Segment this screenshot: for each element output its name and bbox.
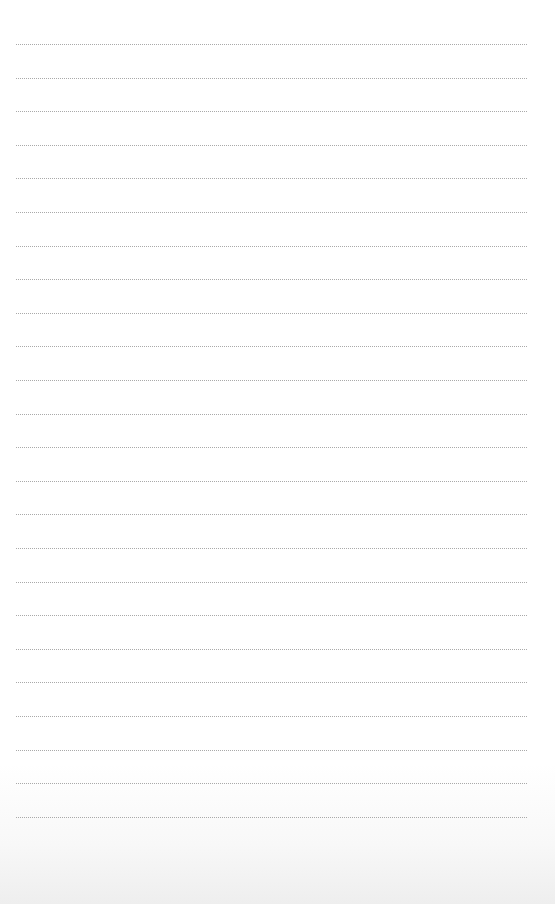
ruled-line [16, 380, 527, 381]
ruled-line [16, 145, 527, 146]
ruled-line [16, 414, 527, 415]
ruled-paper-page [0, 0, 555, 904]
ruled-line [16, 514, 527, 515]
ruled-line [16, 582, 527, 583]
ruled-line [16, 346, 527, 347]
ruled-line [16, 313, 527, 314]
ruled-line [16, 111, 527, 112]
ruled-line [16, 212, 527, 213]
ruled-line [16, 246, 527, 247]
ruled-line [16, 548, 527, 549]
ruled-line [16, 481, 527, 482]
ruled-line [16, 750, 527, 751]
ruled-line [16, 447, 527, 448]
ruled-line [16, 615, 527, 616]
ruled-line [16, 682, 527, 683]
ruled-line [16, 178, 527, 179]
ruled-line [16, 279, 527, 280]
ruled-line [16, 649, 527, 650]
ruled-line [16, 78, 527, 79]
ruled-line [16, 817, 527, 818]
ruled-line [16, 44, 527, 45]
ruled-line [16, 783, 527, 784]
ruled-line [16, 716, 527, 717]
